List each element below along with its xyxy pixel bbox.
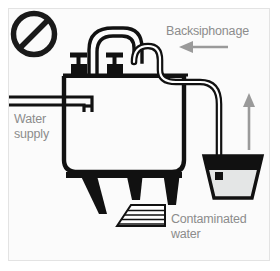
faucet-handle-right[interactable] [106,53,123,77]
arrow-left-icon [179,41,228,53]
faucet-handle-left[interactable] [70,53,87,77]
backsiphonage-diagram: Backsiphonage Water supply Contaminated … [0,0,280,271]
label-contaminated-water: Contaminated water [171,212,246,242]
sink-basin [63,76,186,172]
sink-leg-left [79,172,107,214]
floor-drain-grate [117,205,165,226]
label-water-supply: Water supply [14,112,49,142]
arrow-up-icon [243,93,255,150]
bucket [204,156,262,198]
water-supply-pipe [9,97,92,112]
prohibition-icon [14,14,55,55]
sink-underside-shadow [66,172,182,178]
label-backsiphonage: Backsiphonage [166,24,249,39]
